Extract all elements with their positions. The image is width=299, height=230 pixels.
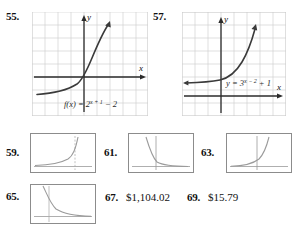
problem-number-65: 65. [6, 190, 19, 202]
answer-value-69: $15.79 [208, 191, 238, 203]
graph-panel-59 [30, 133, 96, 173]
x-axis [34, 74, 146, 79]
problem-number-55: 55. [6, 10, 19, 22]
equation-label-55: f(x) = 2x + 1 − 2 [64, 99, 118, 110]
problem-number-63: 63. [201, 146, 214, 158]
grid-lines [182, 12, 286, 116]
equation-label-57: y = 3x − 2 + 1 [225, 78, 271, 89]
problem-number-67: 67. [105, 191, 118, 203]
graph-svg-55: x y f(x) = 2x + 1 − 2 [32, 12, 148, 116]
x-axis [184, 93, 283, 98]
answer-value-67: $1,104.02 [126, 191, 170, 203]
answer-key-page: 55. [0, 0, 299, 230]
graph-panel-61 [128, 133, 194, 173]
graph-svg-57: x y y = 3x − 2 + 1 [182, 12, 286, 116]
x-axis-label-57: x [276, 82, 281, 92]
graph-svg-65 [30, 184, 96, 224]
problem-number-69: 69. [187, 191, 200, 203]
problem-number-59: 59. [6, 146, 19, 158]
graph-svg-59 [30, 133, 96, 173]
y-axis [218, 17, 223, 113]
graph-panel-57: x y y = 3x − 2 + 1 [182, 12, 286, 116]
y-axis-label-57: y [223, 14, 228, 24]
panel-border [31, 185, 96, 224]
graph-svg-61 [128, 133, 194, 173]
graph-panel-55: x y f(x) = 2x + 1 − 2 [32, 12, 148, 116]
curve-arrow-left-57 [183, 80, 188, 85]
problem-number-57: 57. [153, 10, 166, 22]
x-axis-label-55: x [138, 63, 143, 73]
problem-number-61: 61. [104, 146, 117, 158]
curve-55 [37, 25, 108, 95]
graph-panel-63 [226, 133, 292, 173]
graph-panel-65 [30, 184, 96, 224]
graph-svg-63 [226, 133, 292, 173]
y-axis-label-55: y [86, 12, 91, 22]
y-axis [81, 15, 86, 112]
